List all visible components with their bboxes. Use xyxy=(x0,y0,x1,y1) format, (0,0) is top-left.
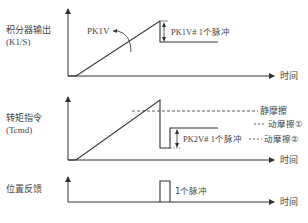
torque-waveform xyxy=(68,100,218,160)
pulse-label: 1个脉冲 xyxy=(175,186,207,196)
dynamic-friction-2-label: 动摩擦② xyxy=(264,134,299,144)
panel-position-feedback: 位置反馈 时间 1个脉冲 xyxy=(6,177,298,207)
time-axis-label: 时间 xyxy=(280,70,298,81)
timing-diagram: 积分器输出 (K1/S) 时间 PK1V PK1V# 1个脉冲 转矩指令 (Tc… xyxy=(0,0,308,223)
pk2v-step-label: PK2V# 1个脉冲 xyxy=(183,134,242,144)
static-friction-label: 静摩擦 xyxy=(260,105,287,116)
torque-command-unit: (Tcmd) xyxy=(6,125,32,135)
position-feedback-label: 位置反馈 xyxy=(6,183,42,194)
integrator-output-label: 积分器输出 xyxy=(6,24,51,35)
arrowhead-icon xyxy=(175,143,179,148)
position-pulse xyxy=(160,181,170,202)
dynamic-friction-1-label: 动摩擦① xyxy=(268,119,303,129)
arrowhead-icon xyxy=(175,129,179,134)
arrowhead-icon xyxy=(162,37,166,42)
pk1v-label: PK1V xyxy=(87,26,110,36)
integrator-output-unit: (K1/S) xyxy=(6,37,31,47)
panel-torque-command: 转矩指令 (Tcmd) 时间 静摩擦 动摩擦① PK2V# 1个脉冲 动摩擦② xyxy=(6,97,303,165)
arrowhead-icon xyxy=(162,22,166,27)
time-axis-label: 时间 xyxy=(280,196,298,207)
panel-integrator-output: 积分器输出 (K1/S) 时间 PK1V PK1V# 1个脉冲 xyxy=(6,9,298,81)
torque-command-label: 转矩指令 xyxy=(6,112,42,123)
time-axis-label: 时间 xyxy=(280,154,298,165)
arrowhead-icon xyxy=(113,29,117,33)
pk1v-step-label: PK1V# 1个脉冲 xyxy=(171,27,230,37)
